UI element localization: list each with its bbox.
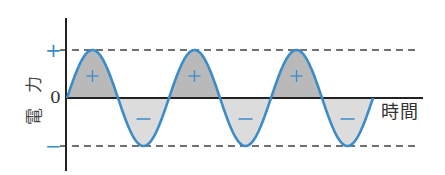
y-axis-label: 電 力	[22, 70, 42, 122]
power-waveform-diagram	[0, 0, 445, 175]
x-axis-label: 時間	[381, 103, 419, 121]
y-tick-minus: −	[45, 136, 62, 156]
y-tick-zero: 0	[50, 89, 61, 106]
y-axis-label-char-den: 電	[20, 107, 45, 127]
y-tick-plus: +	[45, 40, 62, 60]
y-axis-label-char-ryoku: 力	[20, 75, 45, 95]
